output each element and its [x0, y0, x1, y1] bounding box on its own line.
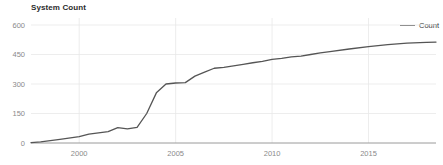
- y-axis-tick-label: 600: [12, 21, 25, 30]
- x-axis-tick-label: 2005: [167, 149, 184, 158]
- x-axis-tick-label: 2000: [71, 149, 88, 158]
- chart-x-axis-labels: 2000200520102015: [71, 149, 377, 158]
- chart-series-group: [31, 42, 436, 143]
- x-axis-tick-label: 2015: [360, 149, 377, 158]
- chart-container: System Count Count 0150300450600 2000200…: [0, 0, 443, 165]
- series-line-count: [31, 42, 436, 143]
- y-axis-tick-label: 300: [12, 80, 25, 89]
- chart-gridlines: [31, 18, 436, 143]
- chart-plot-area: 0150300450600 2000200520102015: [0, 0, 443, 165]
- chart-y-axis-labels: 0150300450600: [12, 21, 25, 148]
- y-axis-tick-label: 150: [12, 109, 25, 118]
- x-axis-tick-label: 2010: [264, 149, 281, 158]
- y-axis-tick-label: 0: [21, 139, 25, 148]
- y-axis-tick-label: 450: [12, 50, 25, 59]
